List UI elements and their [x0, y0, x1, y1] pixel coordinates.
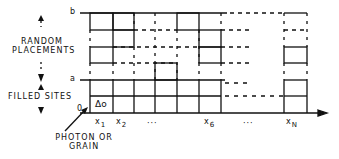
level-a-label: a — [70, 74, 76, 83]
x-tick-x2: x2 — [116, 117, 127, 129]
level-b-label: b — [70, 7, 76, 16]
x-tick-ellipsis-2: ··· — [243, 119, 254, 128]
random-placements — [90, 13, 307, 80]
x-tick-xN: xN — [286, 117, 298, 129]
x-axis-arrow-icon — [318, 110, 327, 116]
photon-symbol: Δo — [95, 99, 107, 109]
photon-line1: PHOTON OR — [48, 133, 120, 142]
x-tick-ellipsis-1: ··· — [147, 119, 158, 128]
origin-label: 0 — [77, 104, 83, 113]
random-placements-line2: PLACEMENTS — [12, 46, 72, 55]
filled-sites-grid — [90, 80, 307, 113]
photon-or-grain-label: PHOTON OR GRAIN — [48, 133, 120, 151]
photon-line2: GRAIN — [48, 142, 120, 151]
random-placements-label: RANDOM PLACEMENTS — [12, 37, 72, 55]
filled-sites-label: FILLED SITES — [8, 92, 72, 101]
x-tick-x6: x6 — [204, 117, 215, 129]
random-placements-line1: RANDOM — [12, 37, 72, 46]
x-tick-x1: x1 — [95, 117, 106, 129]
